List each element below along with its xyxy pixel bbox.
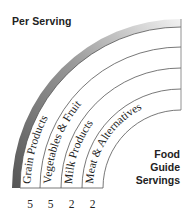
servings-grain: 5 <box>27 198 33 210</box>
svg-text:Meat & Alternatives: Meat & Alternatives <box>83 100 144 185</box>
legend-line-3: Servings <box>136 174 180 187</box>
category-label-meat: Meat & Alternatives <box>83 100 144 185</box>
servings-milk: 2 <box>69 198 75 210</box>
servings-vegetables: 5 <box>48 198 54 210</box>
legend-line-2: Guide <box>136 161 180 174</box>
legend-line-1: Food <box>136 148 180 161</box>
servings-meat: 2 <box>90 198 96 210</box>
servings-legend: Food Guide Servings <box>136 148 180 187</box>
